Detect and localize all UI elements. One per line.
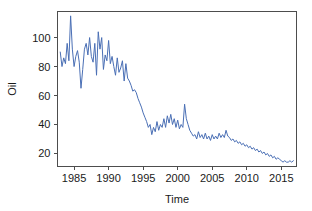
x-tick-label: 2015 bbox=[269, 172, 293, 184]
line-chart: 20406080100 1985199019952000200520102015… bbox=[0, 0, 312, 211]
x-tick-label: 2010 bbox=[235, 172, 259, 184]
x-axis-title: Time bbox=[165, 193, 189, 205]
y-axis-title: Oil bbox=[6, 82, 18, 95]
y-tick-label: 60 bbox=[38, 90, 50, 102]
y-tick-label: 40 bbox=[38, 118, 50, 130]
x-tick-label: 1990 bbox=[96, 172, 120, 184]
y-tick-label: 20 bbox=[38, 147, 50, 159]
chart-figure: 20406080100 1985199019952000200520102015… bbox=[0, 0, 312, 211]
plot-panel bbox=[58, 12, 297, 167]
x-tick-label: 1985 bbox=[62, 172, 86, 184]
y-tick-label: 80 bbox=[38, 61, 50, 73]
x-tick-label: 2000 bbox=[165, 172, 189, 184]
y-tick-label: 100 bbox=[32, 32, 50, 44]
x-tick-label: 1995 bbox=[131, 172, 155, 184]
x-tick-label: 2005 bbox=[200, 172, 224, 184]
